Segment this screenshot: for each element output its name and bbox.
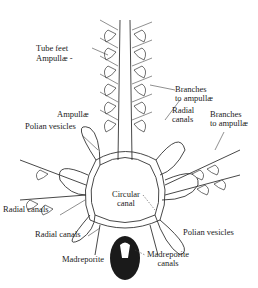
- label-branches-to-ampullae-1: Branches to ampullæ: [175, 85, 213, 103]
- label-tube-feet: Tube feet: [36, 44, 68, 53]
- label-radial-canals-bottom: Radial canals: [35, 230, 81, 239]
- label-circular-canal: Circular canal: [112, 190, 140, 208]
- label-polian-vesicles-right: Polian vesicles: [183, 228, 234, 237]
- label-branches-to-ampullae-2: Branches to ampullæ: [210, 110, 248, 128]
- label-radial-canals-top: Radial canals: [172, 106, 194, 124]
- label-madreporite: Madreporite: [62, 255, 104, 264]
- label-radial-canals-left: Radial canals: [3, 205, 49, 214]
- upper-arm: [100, 20, 152, 160]
- label-ampullae-top: Ampullæ -: [36, 54, 73, 63]
- label-ampullae-mid: Ampullæ: [57, 110, 89, 119]
- label-madreporite-canals: Madreporite canals: [147, 250, 189, 268]
- label-polian-vesicles-left: Polian vesicles: [25, 122, 76, 131]
- water-vascular-system-diagram: Tube feet Ampullæ - Branches to ampullæ …: [0, 0, 258, 288]
